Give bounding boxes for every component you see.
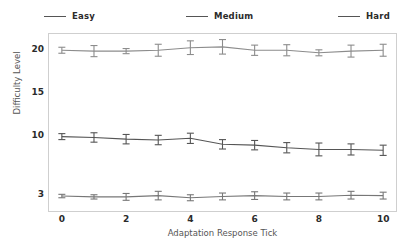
legend-label-easy: Easy	[72, 11, 95, 21]
chart-legend: Easy Medium Hard	[0, 6, 413, 26]
x-tick-label: 10	[368, 214, 398, 224]
y-tick-label: 20	[18, 44, 44, 54]
series-canvas	[49, 34, 396, 211]
series-medium	[58, 133, 386, 156]
legend-line-icon-easy	[44, 16, 66, 17]
legend-item-hard: Hard	[338, 6, 390, 26]
y-axis-ticks: 2015103	[14, 0, 44, 249]
y-tick-label: 15	[18, 87, 44, 97]
legend-label-medium: Medium	[214, 11, 253, 21]
chart-figure: Easy Medium Hard Difficulty Level 201510…	[0, 0, 413, 249]
y-tick-label: 10	[18, 130, 44, 140]
x-tick-label: 8	[304, 214, 334, 224]
series-easy	[58, 40, 386, 58]
x-tick-label: 4	[175, 214, 205, 224]
legend-line-icon-medium	[186, 16, 208, 17]
x-tick-label: 6	[240, 214, 270, 224]
legend-item-medium: Medium	[186, 6, 253, 26]
legend-line-icon-hard	[338, 16, 360, 17]
x-tick-label: 0	[47, 214, 77, 224]
plot-area	[48, 33, 397, 212]
x-tick-label: 2	[111, 214, 141, 224]
x-axis-title: Adaptation Response Tick	[48, 228, 397, 238]
series-hard	[58, 191, 386, 200]
y-tick-label: 3	[18, 189, 44, 199]
legend-item-easy: Easy	[44, 6, 95, 26]
legend-label-hard: Hard	[366, 11, 390, 21]
